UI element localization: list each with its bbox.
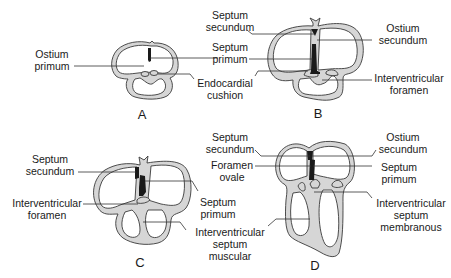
- label-line: Interventricular: [12, 197, 82, 209]
- label-line: primum: [381, 173, 416, 185]
- label-septum-primum-b: Septum primum: [212, 41, 248, 65]
- label-interventricular-septum-muscular-c: Interventricular septum muscular: [195, 226, 265, 262]
- label-line: Septum: [381, 161, 417, 173]
- label-line: primum: [212, 53, 247, 65]
- label-interventricular-foramen-c: Interventricular foramen: [12, 197, 82, 221]
- panel-label-d: D: [310, 258, 319, 273]
- label-line: Septum: [212, 9, 248, 21]
- label-line: Septum: [200, 196, 236, 208]
- label-ostium-secundum-b: Ostium secundum: [379, 22, 428, 46]
- label-line: primum: [200, 208, 235, 220]
- label-line: primum: [34, 60, 69, 72]
- label-line: Interventricular: [374, 72, 444, 84]
- septum-primum-a: [148, 48, 151, 62]
- label-endocardial-cushion-b: Endocardial cushion: [197, 77, 252, 101]
- label-line: Endocardial: [197, 77, 252, 89]
- septum-primum-d: [309, 159, 315, 180]
- panel-label-a: A: [138, 107, 147, 122]
- label-septum-secundum-b: Septum secundum: [206, 9, 255, 33]
- label-line: cushion: [207, 89, 243, 101]
- label-line: Ostium: [35, 48, 69, 60]
- heart-b-right-atrium: [318, 28, 357, 70]
- label-line: secundum: [379, 34, 428, 46]
- endocardial-cushion-a-left: [141, 72, 149, 77]
- label-line: secundum: [26, 165, 75, 177]
- label-line: secundum: [206, 21, 255, 33]
- heart-c-right-ventricle: [146, 210, 167, 238]
- label-line: secundum: [206, 143, 255, 155]
- panel-label-c: C: [135, 255, 144, 270]
- panel-label-b: B: [314, 106, 323, 121]
- label-line: secundum: [379, 143, 428, 155]
- label-line: ovale: [219, 171, 244, 183]
- heart-c-right-atrium: [148, 165, 184, 205]
- label-line: septum: [213, 238, 248, 250]
- label-septum-primum-c: Septum primum: [200, 196, 236, 220]
- label-septum-secundum-d: Septum secundum: [206, 131, 255, 155]
- label-line: Interventricular: [195, 226, 265, 238]
- label-ostium-secundum-d: Ostium secundum: [379, 131, 428, 155]
- label-line: Ostium: [386, 22, 420, 34]
- heart-panel-c: C: [78, 156, 198, 270]
- heart-panel-d: D: [255, 141, 376, 273]
- septum-primum-c: [139, 175, 146, 196]
- heart-a-atrium: [116, 45, 173, 74]
- leader-a-endocardial-cushion-bend: [190, 74, 194, 79]
- embryonic-heart-septation-diagram: A B C: [0, 0, 451, 278]
- label-interventricular-foramen-b: Interventricular foramen: [374, 72, 444, 96]
- label-line: Foramen: [211, 159, 253, 171]
- label-line: foramen: [390, 84, 429, 96]
- label-line: Interventricular: [376, 197, 446, 209]
- label-line: Septum: [212, 131, 248, 143]
- heart-d-right-ventricle: [319, 190, 339, 247]
- label-line: septum: [394, 209, 429, 221]
- label-line: Ostium: [386, 131, 420, 143]
- heart-panel-b: B: [247, 18, 372, 121]
- label-line: Septum: [212, 41, 248, 53]
- label-line: foramen: [28, 209, 67, 221]
- label-line: Septum: [32, 153, 68, 165]
- label-line: membranous: [380, 221, 441, 233]
- label-line: muscular: [209, 250, 252, 262]
- endocardial-cushion-a-right: [150, 71, 158, 76]
- label-septum-secundum-c: Septum secundum: [26, 153, 75, 177]
- label-septum-primum-d: Septum primum: [381, 161, 417, 185]
- endocardial-cushion-d-right: [332, 180, 343, 187]
- septum-secundum-c: [135, 167, 139, 179]
- heart-d-right-atrium: [313, 146, 350, 179]
- label-interventricular-septum-membranous-d: Interventricular septum membranous: [376, 197, 446, 233]
- septum-secundum-d: [307, 151, 313, 160]
- label-ostium-primum-a: Ostium primum: [34, 48, 69, 72]
- label-foramen-ovale-d: Foramen ovale: [211, 159, 253, 183]
